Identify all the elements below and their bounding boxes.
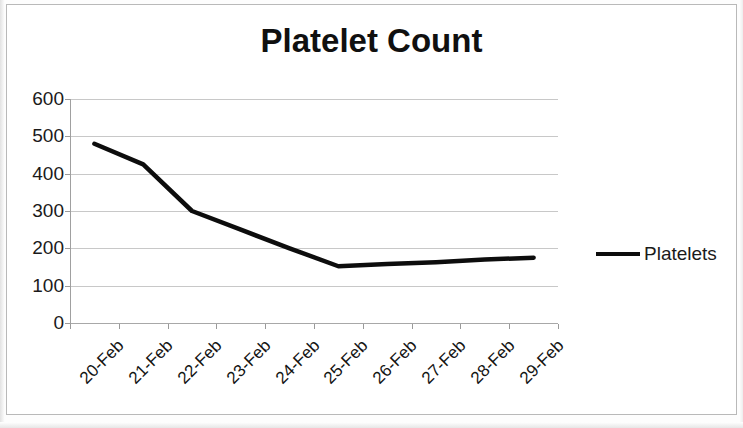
legend-entry-label: Platelets: [644, 243, 717, 265]
legend-line-swatch: [596, 252, 640, 256]
chart-page: Platelet Count 0100200300400500600 20-Fe…: [0, 0, 743, 428]
chart-legend: Platelets: [596, 243, 717, 265]
series-line-platelets: [70, 99, 558, 323]
